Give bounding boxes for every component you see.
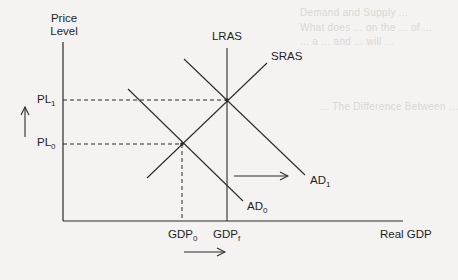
sras-curve: [147, 63, 267, 178]
ad1-curve: [184, 59, 305, 175]
x-axis-label: Real GDP: [380, 229, 432, 241]
equilibrium-point-0: [180, 142, 184, 146]
pl1-label: PL1: [37, 94, 56, 108]
ad0-curve: [128, 89, 243, 201]
ad1-label: AD1: [310, 175, 330, 189]
gdpf-label: GDPf: [213, 229, 240, 243]
lras-label: LRAS: [212, 31, 242, 43]
y-axis-label: Price Level: [50, 12, 78, 38]
sras-label: SRAS: [271, 51, 302, 63]
equilibrium-point-1: [225, 98, 229, 102]
gdp0-label: GDP0: [168, 229, 197, 243]
pl0-label: PL0: [37, 137, 56, 151]
ad0-label: AD0: [247, 201, 267, 215]
